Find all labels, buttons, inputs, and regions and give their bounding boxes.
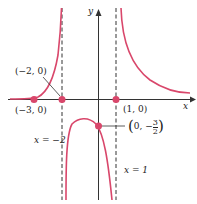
point-m2 [59,96,66,103]
label-asym-left: x = −2 [34,135,66,145]
graph [0,0,197,204]
label-asym-right: x = 1 [124,165,148,175]
point-m3 [31,96,38,103]
x-axis-label: x [183,101,188,111]
label-m3: (−3, 0) [15,105,47,115]
x-axis-arrow-icon [190,97,196,103]
label-m2: (−2, 0) [15,66,47,76]
curve-left-branch [10,8,62,99]
curve-right-branch [121,8,190,93]
y-axis-label: y [88,6,93,16]
label-0: (0, −32) [128,117,164,136]
label-1: (1, 0) [123,104,147,114]
curve-middle-branch [66,119,112,200]
point-0 [95,123,102,130]
point-1 [113,96,120,103]
y-axis-arrow-icon [96,9,102,16]
